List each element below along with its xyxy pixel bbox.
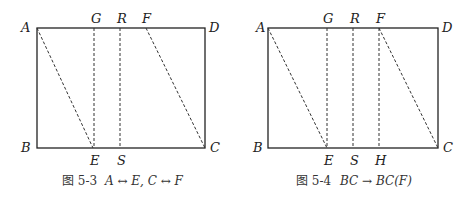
label-c: C xyxy=(210,140,220,155)
segment-fc xyxy=(146,28,205,148)
segment-fc xyxy=(379,28,438,148)
label-a: A xyxy=(20,20,30,35)
segment-ae xyxy=(268,28,327,148)
label-d: D xyxy=(441,20,453,35)
label-f: F xyxy=(141,11,152,26)
label-h: H xyxy=(374,153,387,168)
label-d: D xyxy=(208,20,220,35)
figure-5-3: A G R F D B C E S 图 5-3 A ↔ E, C ↔ F xyxy=(20,11,220,188)
caption-number: 图 5-3 xyxy=(62,174,97,188)
label-e: E xyxy=(89,153,100,168)
caption-formula: BC → BC(F) xyxy=(339,174,412,188)
diagram-canvas: A G R F D B C E S 图 5-3 A ↔ E, C ↔ F A G… xyxy=(0,0,472,199)
label-b: B xyxy=(20,140,31,155)
caption-formula: A ↔ E, C ↔ F xyxy=(104,174,184,188)
caption-number: 图 5-4 xyxy=(296,174,332,188)
segment-ae xyxy=(37,28,93,148)
label-s: S xyxy=(350,153,359,168)
label-s: S xyxy=(117,153,126,168)
label-r: R xyxy=(116,11,127,26)
figure-5-4: A G R F D B C E S H 图 5-4 BC → BC(F) xyxy=(252,11,453,188)
label-a: A xyxy=(255,20,265,35)
label-f: F xyxy=(375,11,386,26)
label-g: G xyxy=(323,11,333,26)
label-e: E xyxy=(323,153,334,168)
rectangle-abcd xyxy=(37,28,205,148)
label-g: G xyxy=(91,11,101,26)
label-c: C xyxy=(443,140,453,155)
label-r: R xyxy=(349,11,360,26)
label-b: B xyxy=(252,140,263,155)
